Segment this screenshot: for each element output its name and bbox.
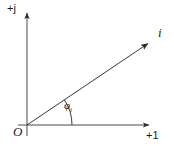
origin-label: O — [13, 125, 22, 138]
diagram-canvas — [0, 0, 174, 150]
angle-label: φi — [64, 100, 72, 114]
real-axis-label: +1 — [146, 130, 159, 141]
phasor-diagram-figure: +j +1 O i φi — [0, 0, 174, 150]
current-phasor-label: i — [158, 26, 162, 39]
imaginary-axis-label: +j — [7, 3, 16, 14]
current-phasor-line — [27, 44, 148, 126]
angle-subscript: i — [70, 106, 72, 114]
